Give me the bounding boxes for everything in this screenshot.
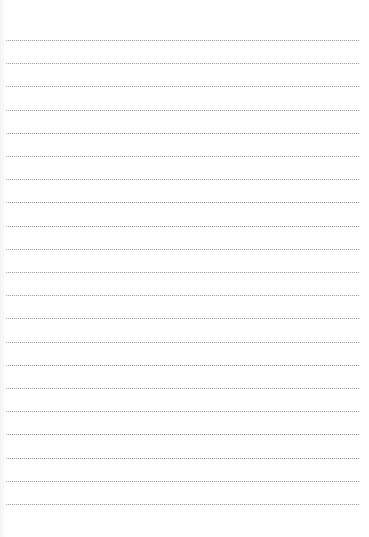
ruled-line <box>6 318 359 319</box>
ruled-line <box>6 272 359 273</box>
ruled-line <box>6 226 359 227</box>
ruled-line <box>6 504 359 505</box>
ruled-line <box>6 458 359 459</box>
ruled-line <box>6 133 359 134</box>
ruled-line <box>6 156 359 157</box>
ruled-line <box>6 342 359 343</box>
ruled-line <box>6 434 359 435</box>
ruled-line <box>6 202 359 203</box>
ruled-line <box>6 249 359 250</box>
ruled-line <box>6 63 359 64</box>
ruled-line <box>6 388 359 389</box>
ruled-line <box>6 481 359 482</box>
ruled-line <box>6 365 359 366</box>
ruled-line <box>6 40 359 41</box>
ruled-line <box>6 86 359 87</box>
ruled-line <box>6 179 359 180</box>
ruled-line <box>6 295 359 296</box>
lined-paper-page <box>0 0 369 537</box>
ruled-line <box>6 411 359 412</box>
ruled-line <box>6 110 359 111</box>
